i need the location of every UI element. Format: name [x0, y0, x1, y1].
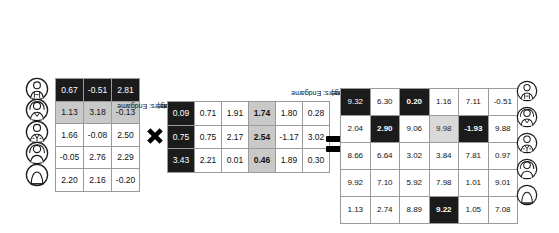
table-row: -0.05 2.76 2.29: [56, 146, 140, 169]
matrix-cell: 2.21: [195, 149, 222, 173]
matrix-cell: 2.17: [222, 125, 249, 149]
matrix-cell: -0.08: [84, 124, 112, 147]
matrix-cell: 1.01: [459, 170, 489, 197]
user-avatar-5-icon: [516, 184, 538, 206]
matrix-cell: -0.05: [56, 146, 84, 169]
matrix-cell: 2.81: [112, 79, 140, 102]
avatar-slot: [22, 121, 52, 143]
matrix-cell: 0.46: [249, 149, 276, 173]
factor-item-matrix: 0.09 0.71 1.91 1.74 1.80 0.28 0.75 0.75 …: [167, 101, 330, 173]
matrix-cell: 2.16: [84, 169, 112, 192]
matrix-cell: 1.66: [56, 124, 84, 147]
matrix-cell: 0.75: [195, 125, 222, 149]
user-avatar-3-icon: [516, 132, 538, 154]
table-row: 8.66 6.64 3.02 3.84 7.81 0.97: [341, 143, 518, 170]
matrix-cell: 1.16: [429, 89, 459, 116]
avatar-slot: [22, 164, 52, 186]
table-row: 0.09 0.71 1.91 1.74 1.80 0.28: [168, 102, 330, 126]
avatar-slot: [512, 182, 542, 208]
matrix-cell: 2.90: [370, 116, 400, 143]
result-column-headers: Avengers: Endgame(Movie) Black Panther(M…: [340, 12, 511, 88]
matrix-factorization-figure: 0.67 -0.51 2.81 1.13 3.18 -0.13 1.66 -0.…: [0, 0, 559, 233]
avatar-slot: [512, 130, 542, 156]
table-row: 2.04 2.90 9.06 9.98 -1.93 9.88: [341, 116, 518, 143]
matrix-cell: 0.67: [56, 79, 84, 102]
column-header-avengers-endgame: Avengers: Endgame(Movie): [167, 25, 193, 101]
user-item-rating-matrix: 9.32 6.30 0.20 1.16 7.11 -0.51 2.04 2.90…: [340, 88, 518, 224]
matrix-cell: -1.93: [459, 116, 489, 143]
matrix-cell: 3.02: [400, 143, 430, 170]
table-row: 1.13 2.74 8.89 9.22 1.05 7.08: [341, 197, 518, 224]
matrix-cell: 9.22: [429, 197, 459, 224]
column-header-notting-hill: Notting Hill(Movie): [397, 12, 426, 88]
avatar-slot: [22, 78, 52, 100]
user-avatar-2-icon: [516, 106, 538, 128]
matrix-cell: 3.84: [429, 143, 459, 170]
matrix-cell: 3.43: [168, 149, 195, 173]
matrix-cell: 7.11: [459, 89, 489, 116]
matrix-cell: 2.04: [341, 116, 371, 143]
column-header-notting-hill: Notting Hill(Movie): [219, 25, 245, 101]
column-header-avengers-endgame: Avengers: Endgame(Movie): [340, 12, 369, 88]
matrix-cell: -1.17: [276, 125, 303, 149]
matrix-cell: 2.76: [84, 146, 112, 169]
matrix-cell: -0.20: [112, 169, 140, 192]
matrix-cell: 8.89: [400, 197, 430, 224]
matrix-cell: 1.74: [249, 102, 276, 126]
column-header-the-notebook: The Notebook(Movie): [246, 25, 272, 101]
matrix-cell: 0.20: [400, 89, 430, 116]
matrix-cell: 9.98: [429, 116, 459, 143]
column-header-black-panther: Black Panther(Movie): [369, 12, 398, 88]
matrix-cell: 5.92: [400, 170, 430, 197]
times-icon: [143, 124, 167, 148]
matrix-cell: 3.18: [84, 101, 112, 124]
column-header-the-bachelor: The Bachelor(TV Show): [483, 12, 512, 88]
matrix-cell: 0.71: [195, 102, 222, 126]
user-avatar-1-icon: [25, 77, 49, 101]
matrix-cell: 1.13: [56, 101, 84, 124]
user-avatar-5-icon: [25, 163, 49, 187]
column-header-black-panther: Black Panther(Movie): [193, 25, 219, 101]
matrix-cell: 7.10: [370, 170, 400, 197]
user-avatar-1-icon: [516, 80, 538, 102]
matrix-cell: 2.74: [370, 197, 400, 224]
matrix-cell: 6.64: [370, 143, 400, 170]
avatar-slot: [22, 143, 52, 165]
avatar-slot: [512, 156, 542, 182]
table-row: 0.75 0.75 2.17 2.54 -1.17 3.02: [168, 125, 330, 149]
matrix-cell: 1.91: [222, 102, 249, 126]
table-row: 9.32 6.30 0.20 1.16 7.11 -0.51: [341, 89, 518, 116]
avatar-slot: [512, 104, 542, 130]
matrix-cell: 0.75: [168, 125, 195, 149]
matrix-cell: 1.80: [276, 102, 303, 126]
table-row: 9.92 7.10 5.92 7.98 1.01 9.01: [341, 170, 518, 197]
matrix-cell: 0.09: [168, 102, 195, 126]
matrix-cell: 2.50: [112, 124, 140, 147]
matrix-cell: 1.05: [459, 197, 489, 224]
matrix-cell: 6.30: [370, 89, 400, 116]
column-header-minecraft: Minecraft(Game): [454, 12, 483, 88]
user-avatar-column-right: [512, 78, 542, 208]
avatar-slot: [512, 78, 542, 104]
matrix-cell: 2.29: [112, 146, 140, 169]
table-row: 3.43 2.21 0.01 0.46 1.89 0.30: [168, 149, 330, 173]
multiplication-operator-icon: [143, 124, 167, 148]
table-row: 1.66 -0.08 2.50: [56, 124, 140, 147]
matrix-cell: 9.32: [341, 89, 371, 116]
matrix-cell: 8.66: [341, 143, 371, 170]
matrix-cell: 0.01: [222, 149, 249, 173]
matrix-cell: 0.28: [303, 102, 330, 126]
user-factor-matrix: 0.67 -0.51 2.81 1.13 3.18 -0.13 1.66 -0.…: [55, 78, 140, 192]
user-avatar-column-left: [22, 78, 52, 186]
table-row: 0.67 -0.51 2.81: [56, 79, 140, 102]
matrix-cell: 7.98: [429, 170, 459, 197]
matrix-cell: 2.20: [56, 169, 84, 192]
user-avatar-4-icon: [25, 141, 49, 165]
matrix-cell: 1.89: [276, 149, 303, 173]
user-avatar-4-icon: [516, 158, 538, 180]
column-header-the-notebook: The Notebook(Movie): [426, 12, 455, 88]
matrix-cell: 7.81: [459, 143, 489, 170]
matrix-cell: -0.51: [84, 79, 112, 102]
matrix-cell: 2.54: [249, 125, 276, 149]
user-avatar-2-icon: [25, 98, 49, 122]
